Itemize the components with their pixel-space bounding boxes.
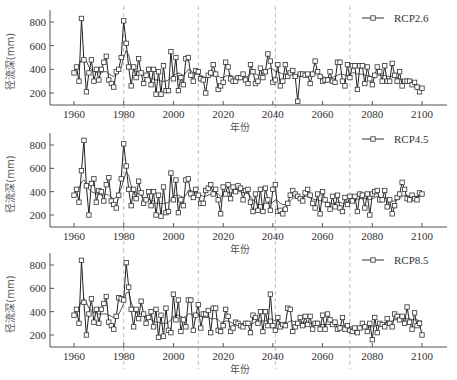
data-point-marker bbox=[261, 329, 265, 333]
data-point-marker bbox=[318, 212, 322, 216]
data-point-marker bbox=[420, 192, 424, 196]
data-point-marker bbox=[82, 300, 86, 304]
data-point-marker bbox=[397, 70, 401, 74]
data-point-marker bbox=[333, 320, 337, 324]
data-point-marker bbox=[146, 67, 150, 71]
data-point-marker bbox=[308, 81, 312, 85]
data-point-marker bbox=[201, 78, 205, 82]
data-point-marker bbox=[248, 62, 252, 66]
data-point-marker bbox=[191, 79, 195, 83]
data-point-marker bbox=[194, 313, 198, 317]
data-point-marker bbox=[308, 314, 312, 318]
data-point-marker bbox=[310, 72, 314, 76]
data-point-marker bbox=[209, 71, 213, 75]
data-point-marker bbox=[308, 193, 312, 197]
x-tick-label: 2020 bbox=[212, 230, 235, 242]
data-point-marker bbox=[400, 180, 404, 184]
data-point-marker bbox=[360, 64, 364, 68]
x-tick-label: 1980 bbox=[113, 230, 136, 242]
x-tick-label: 2000 bbox=[162, 230, 185, 242]
data-point-marker bbox=[77, 321, 81, 325]
data-point-marker bbox=[74, 307, 78, 311]
data-point-marker bbox=[89, 58, 93, 62]
data-point-marker bbox=[345, 202, 349, 206]
y-tick-label: 800 bbox=[30, 259, 47, 271]
data-point-marker bbox=[300, 323, 304, 327]
data-point-marker bbox=[281, 212, 285, 216]
chart-panel-rcp26: 2004006008001960198020002020204020602080… bbox=[4, 6, 447, 133]
data-point-marker bbox=[402, 321, 406, 325]
data-point-marker bbox=[231, 185, 235, 189]
data-point-marker bbox=[223, 192, 227, 196]
data-point-marker bbox=[92, 79, 96, 83]
data-point-marker bbox=[218, 212, 222, 216]
data-point-marker bbox=[305, 322, 309, 326]
data-point-marker bbox=[216, 198, 220, 202]
data-point-marker bbox=[74, 187, 78, 191]
data-point-marker bbox=[385, 205, 389, 209]
data-point-marker bbox=[375, 188, 379, 192]
data-point-marker bbox=[131, 187, 135, 191]
legend: RCP4.5 bbox=[362, 133, 429, 145]
data-point-marker bbox=[156, 70, 160, 74]
data-point-marker bbox=[296, 321, 300, 325]
data-point-marker bbox=[420, 333, 424, 337]
data-point-marker bbox=[246, 81, 250, 85]
data-point-marker bbox=[400, 314, 404, 318]
data-point-marker bbox=[161, 185, 165, 189]
x-tick-label: 2060 bbox=[312, 350, 335, 362]
data-point-marker bbox=[176, 210, 180, 214]
data-point-marker bbox=[136, 179, 140, 183]
data-point-marker bbox=[390, 325, 394, 329]
data-point-marker bbox=[246, 321, 250, 325]
data-point-marker bbox=[144, 73, 148, 77]
y-tick-label: 600 bbox=[30, 40, 47, 52]
data-point-marker bbox=[310, 327, 314, 331]
data-point-marker bbox=[223, 60, 227, 64]
annual-runoff-line bbox=[74, 140, 422, 216]
data-point-marker bbox=[181, 318, 185, 322]
data-point-marker bbox=[333, 80, 337, 84]
data-point-marker bbox=[370, 83, 374, 87]
y-tick-label: 800 bbox=[30, 16, 47, 28]
data-point-marker bbox=[310, 201, 314, 205]
x-tick-label: 1980 bbox=[113, 108, 136, 120]
data-point-marker bbox=[315, 321, 319, 325]
data-point-marker bbox=[380, 79, 384, 83]
data-point-marker bbox=[89, 297, 93, 301]
data-point-marker bbox=[268, 59, 272, 63]
data-point-marker bbox=[387, 79, 391, 83]
data-point-marker bbox=[218, 329, 222, 333]
data-point-marker bbox=[171, 77, 175, 81]
y-tick-label: 800 bbox=[30, 139, 47, 151]
data-point-marker bbox=[186, 55, 190, 59]
data-point-marker bbox=[345, 323, 349, 327]
legend-square-marker-icon bbox=[371, 258, 375, 262]
data-point-marker bbox=[176, 298, 180, 302]
data-point-marker bbox=[256, 321, 260, 325]
data-point-marker bbox=[114, 206, 118, 210]
data-point-marker bbox=[189, 73, 193, 77]
data-point-marker bbox=[77, 79, 81, 83]
data-point-marker bbox=[149, 83, 153, 87]
data-point-marker bbox=[238, 186, 242, 190]
data-point-marker bbox=[151, 325, 155, 329]
data-point-marker bbox=[99, 189, 103, 193]
data-point-marker bbox=[375, 65, 379, 69]
data-point-marker bbox=[204, 91, 208, 95]
data-point-marker bbox=[122, 298, 126, 302]
data-point-marker bbox=[97, 78, 101, 82]
data-point-marker bbox=[348, 194, 352, 198]
data-point-marker bbox=[117, 193, 121, 197]
data-point-marker bbox=[84, 333, 88, 337]
data-point-marker bbox=[82, 138, 86, 142]
data-point-marker bbox=[161, 334, 165, 338]
data-point-marker bbox=[79, 16, 83, 20]
data-point-marker bbox=[233, 189, 237, 193]
data-point-marker bbox=[211, 192, 215, 196]
data-point-marker bbox=[256, 208, 260, 212]
x-tick-label: 2060 bbox=[312, 108, 335, 120]
data-point-marker bbox=[104, 54, 108, 58]
x-tick-label: 2020 bbox=[212, 350, 235, 362]
data-point-marker bbox=[266, 52, 270, 56]
